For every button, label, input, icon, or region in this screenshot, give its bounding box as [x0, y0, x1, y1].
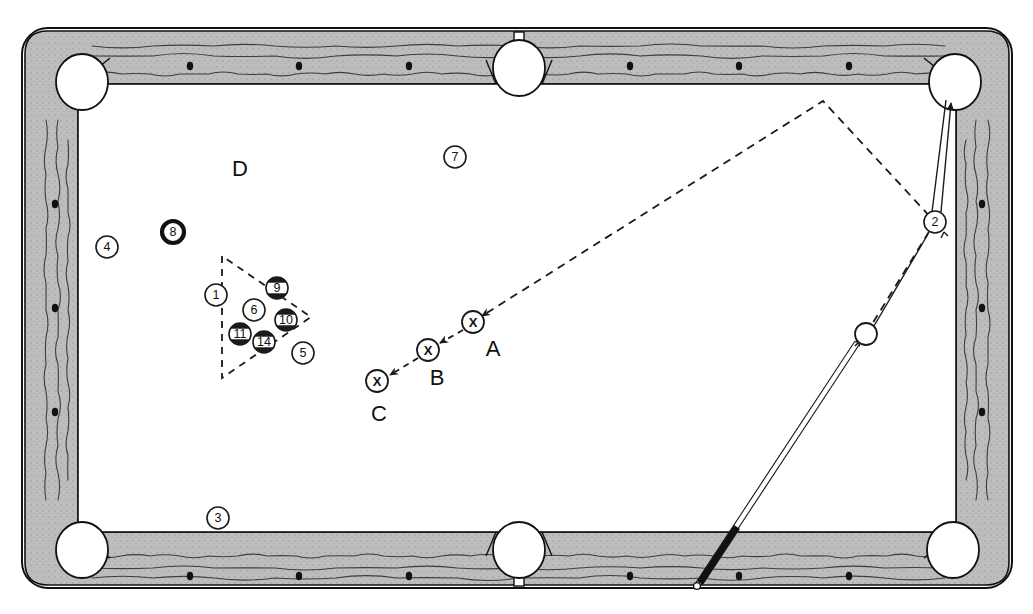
rail-diamond-bottom-2	[406, 572, 412, 580]
ball-11[interactable]: 11	[229, 323, 251, 345]
cue-stick-butt-cap	[694, 583, 701, 590]
pocket-bottom-right[interactable]	[927, 522, 979, 578]
ball-8-number: 8	[170, 225, 177, 239]
ball-9-number: 9	[274, 281, 281, 295]
rail-diamond-bottom-3	[627, 572, 633, 580]
ball-9[interactable]: 9	[266, 277, 288, 299]
rail-diamond-top-2	[406, 62, 412, 70]
ball-6-number: 6	[251, 303, 258, 317]
pool-table-diagram: 487319610111452 XAXBXC D	[0, 0, 1033, 614]
cue-ball[interactable]	[855, 323, 877, 345]
zone-label-d: D	[232, 156, 248, 181]
rail-diamond-top-5	[846, 62, 852, 70]
rail-diamond-top-0	[187, 62, 193, 70]
ball-7-number: 7	[452, 150, 459, 164]
rail-diamond-left-0	[52, 200, 58, 208]
ball-2[interactable]: 2	[924, 211, 946, 233]
ball-2-number: 2	[932, 215, 939, 229]
x-position-c-x-mark: X	[373, 374, 382, 389]
x-position-a-label: A	[486, 336, 501, 361]
ball-4[interactable]: 4	[96, 236, 118, 258]
ball-6[interactable]: 6	[243, 299, 265, 321]
diagram-canvas: 487319610111452 XAXBXC D	[0, 0, 1033, 614]
x-position-a-x-mark: X	[469, 315, 478, 330]
pocket-bottom-center[interactable]	[493, 522, 545, 578]
ball-5[interactable]: 5	[292, 342, 314, 364]
x-position-b-label: B	[430, 365, 445, 390]
ball-10[interactable]: 10	[275, 309, 297, 331]
ball-1[interactable]: 1	[205, 284, 227, 306]
pocket-top-center[interactable]	[493, 40, 545, 96]
pocket-top-left[interactable]	[56, 54, 108, 110]
rail-diamond-bottom-1	[296, 572, 302, 580]
rail-diamond-right-0	[979, 200, 985, 208]
ball-5-number: 5	[300, 346, 307, 360]
ball-11-number: 11	[234, 327, 247, 341]
rail-diamond-left-2	[52, 408, 58, 416]
x-position-c-label: C	[371, 401, 387, 426]
rail-diamond-bottom-4	[736, 572, 742, 580]
pocket-bottom-left[interactable]	[56, 522, 108, 578]
ball-3-number: 3	[215, 511, 222, 525]
ball-3[interactable]: 3	[207, 507, 229, 529]
ball-7[interactable]: 7	[444, 146, 466, 168]
ball-8[interactable]: 8	[162, 221, 184, 243]
cloth-surface	[78, 84, 956, 532]
rail-diamond-bottom-0	[187, 572, 193, 580]
ball-14-number: 14	[257, 335, 271, 349]
zone-labels: D	[232, 156, 248, 181]
rail-diamond-left-1	[52, 304, 58, 312]
table-rails	[25, 31, 1009, 585]
ball-4-number: 4	[104, 240, 111, 254]
ball-14[interactable]: 14	[253, 331, 275, 353]
rail-diamond-top-1	[296, 62, 302, 70]
rail-diamond-top-3	[627, 62, 633, 70]
rail-diamond-top-4	[736, 62, 742, 70]
x-position-b-x-mark: X	[424, 343, 433, 358]
ball-1-number: 1	[213, 288, 220, 302]
ball-10-number: 10	[279, 313, 293, 327]
rail-diamond-right-2	[979, 408, 985, 416]
rail-diamond-bottom-5	[846, 572, 852, 580]
pocket-top-right[interactable]	[929, 54, 981, 110]
rail-diamond-right-1	[979, 304, 985, 312]
